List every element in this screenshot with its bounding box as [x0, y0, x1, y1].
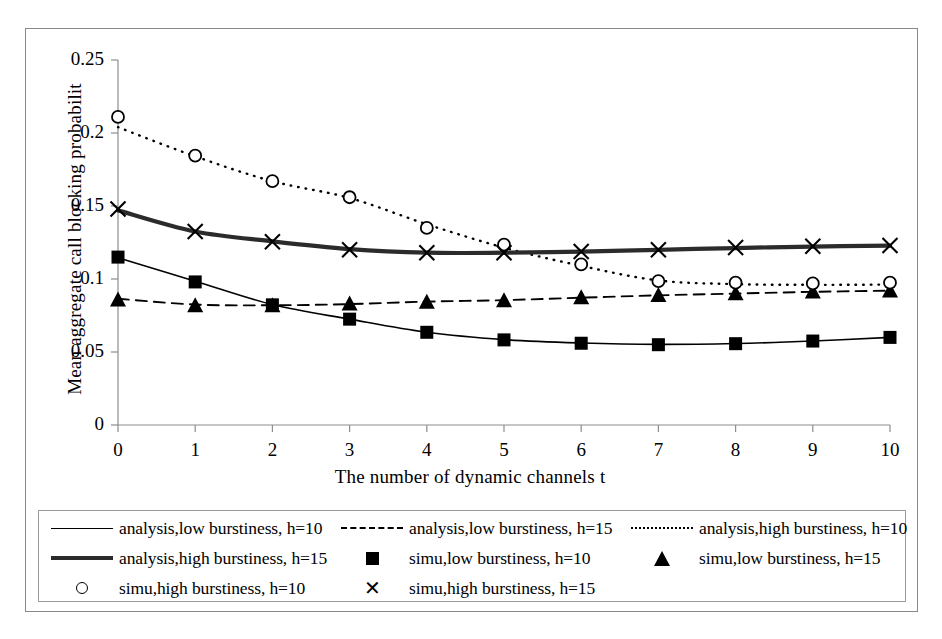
solid-thin-line-icon: [45, 514, 119, 542]
legend-row-1: analysis,low burstiness, h=10 analysis,l…: [39, 513, 907, 543]
figure-container: Mean aggregate call blocking probabilit …: [0, 0, 942, 639]
legend-label: simu,low burstiness, h=10: [409, 548, 590, 569]
dashed-line-icon: [335, 514, 409, 542]
y-tick-label: 0.1: [52, 267, 104, 289]
x-tick-label: 6: [561, 439, 601, 461]
legend-entry-2[interactable]: analysis,high burstiness, h=10: [625, 513, 907, 543]
legend-label: analysis,low burstiness, h=15: [409, 518, 612, 539]
legend-entry-3[interactable]: analysis,high burstiness, h=15: [45, 543, 327, 573]
legend-label: simu,high burstiness, h=10: [119, 578, 305, 599]
filled-square-icon: [335, 544, 409, 572]
legend-label: analysis,low burstiness, h=10: [119, 518, 322, 539]
legend-entry-0[interactable]: analysis,low burstiness, h=10: [45, 513, 322, 543]
y-tick-label: 0.05: [52, 340, 104, 362]
x-tick-label: 8: [716, 439, 756, 461]
y-tick-label: 0.25: [52, 48, 104, 70]
x-tick-label: 0: [98, 439, 138, 461]
legend-label: simu,low burstiness, h=15: [699, 548, 880, 569]
legend-entry-6[interactable]: simu,high burstiness, h=10: [45, 573, 305, 603]
legend-label: analysis,high burstiness, h=10: [699, 518, 907, 539]
legend-entry-1[interactable]: analysis,low burstiness, h=15: [335, 513, 612, 543]
open-circle-icon: [45, 574, 119, 602]
x-tick-label: 2: [252, 439, 292, 461]
legend-entry-4[interactable]: simu,low burstiness, h=10: [335, 543, 590, 573]
x-tick-label: 7: [638, 439, 678, 461]
chart-legend: analysis,low burstiness, h=10 analysis,l…: [38, 510, 906, 602]
x-tick-label: 1: [175, 439, 215, 461]
legend-label: analysis,high burstiness, h=15: [119, 548, 327, 569]
y-axis-title: Mean aggregate call blocking probabilit: [64, 59, 86, 419]
x-tick-label: 3: [330, 439, 370, 461]
solid-thick-line-icon: [45, 544, 119, 572]
filled-triangle-icon: [625, 544, 699, 572]
y-tick-label: 0: [52, 413, 104, 435]
legend-entry-7[interactable]: ✕ simu,high burstiness, h=15: [335, 573, 595, 603]
legend-row-2: analysis,high burstiness, h=15 simu,low …: [39, 543, 907, 573]
y-tick-label: 0.2: [52, 121, 104, 143]
x-axis-title: The number of dynamic channels t: [200, 466, 740, 488]
legend-entry-5[interactable]: simu,low burstiness, h=15: [625, 543, 880, 573]
y-tick-label: 0.15: [52, 194, 104, 216]
cross-x-icon: ✕: [335, 574, 409, 602]
x-tick-label: 5: [484, 439, 524, 461]
x-tick-label: 9: [793, 439, 833, 461]
x-tick-label: 4: [407, 439, 447, 461]
x-tick-label: 10: [870, 439, 910, 461]
legend-label: simu,high burstiness, h=15: [409, 578, 595, 599]
dotted-line-icon: [625, 514, 699, 542]
legend-row-3: simu,high burstiness, h=10 ✕ simu,high b…: [39, 573, 907, 603]
